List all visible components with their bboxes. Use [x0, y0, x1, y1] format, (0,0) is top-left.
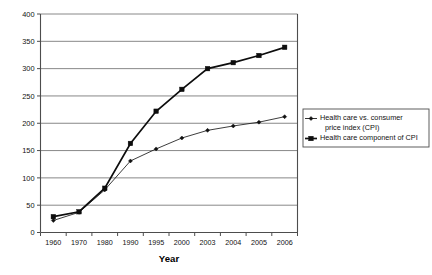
legend-marker-2	[309, 136, 314, 141]
chart-container: 050100150200250300350400 196019701980199…	[0, 0, 432, 275]
y-axis-tick-label: 150	[22, 146, 34, 155]
data-point	[154, 109, 159, 114]
chart-legend: Health care vs. consumerprice index (CPI…	[303, 109, 429, 147]
legend-label-2: Health care component of CPI	[320, 133, 418, 142]
y-axis-tick-label: 400	[22, 10, 34, 19]
legend-label-1: Health care vs. consumer	[320, 113, 403, 122]
y-axis-tick-label: 300	[22, 64, 34, 73]
data-point	[282, 45, 287, 50]
x-axis-tick-label: 1980	[97, 238, 113, 247]
line-chart: 050100150200250300350400 196019701980199…	[0, 0, 432, 275]
y-axis-tick-label: 200	[22, 119, 34, 128]
data-point	[77, 209, 82, 214]
data-point	[257, 53, 262, 58]
data-point	[231, 60, 236, 65]
data-point	[128, 141, 133, 146]
y-axis-tick-label: 50	[26, 201, 34, 210]
data-point	[102, 186, 107, 191]
y-axis-tick-label: 250	[22, 92, 34, 101]
x-axis-tick-label: 1960	[45, 238, 61, 247]
data-point	[180, 87, 185, 92]
data-point	[51, 214, 56, 219]
x-axis-tick-label: 2006	[277, 238, 293, 247]
y-axis-tick-label: 100	[22, 174, 34, 183]
x-axis-tick-label: 2004	[225, 238, 241, 247]
x-axis-tick-label: 2003	[200, 238, 216, 247]
legend-label-1-line2: price index (CPI)	[325, 123, 379, 132]
x-axis-tick-label: 2005	[251, 238, 267, 247]
data-point	[205, 66, 210, 71]
x-axis-tick-label: 1970	[71, 238, 87, 247]
x-axis-tick-label: 1995	[148, 238, 164, 247]
y-axis-tick-label: 350	[22, 37, 34, 46]
x-axis-title: Year	[159, 253, 180, 264]
x-axis-tick-label: 2000	[174, 238, 190, 247]
y-axis-tick-label: 0	[30, 228, 34, 237]
x-axis-tick-label: 1990	[122, 238, 138, 247]
